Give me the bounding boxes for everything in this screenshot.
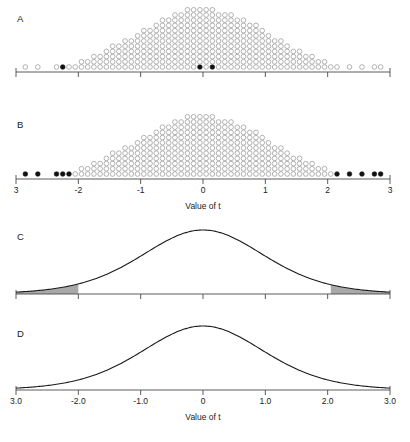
panel-b-letter: B xyxy=(17,119,23,130)
data-dot-highlighted xyxy=(210,65,215,70)
panel-d-tick-label-3: 0 xyxy=(201,396,206,406)
figure-container: A B3-2-10123Value of t C D3.0-2.0-1.001.… xyxy=(0,0,410,442)
panel-d-tick-label-5: 2.0 xyxy=(322,396,334,406)
panel-d-tick-label-4: 1.0 xyxy=(259,396,271,406)
panel-d-letter: D xyxy=(17,328,24,339)
data-dot-highlighted xyxy=(35,172,40,177)
panel-b-axis-title: Value of t xyxy=(185,201,221,211)
data-dot-highlighted xyxy=(378,172,383,177)
data-dot-highlighted xyxy=(67,172,72,177)
data-dot-highlighted xyxy=(372,172,377,177)
panel-a-letter: A xyxy=(17,13,24,24)
panel-b-tick-label-3: 0 xyxy=(201,185,206,195)
panel-d-tick-label-6: 3.0 xyxy=(384,396,396,406)
panel-b-tick-label-4: 1 xyxy=(263,185,268,195)
figure-canvas: A B3-2-10123Value of t C D3.0-2.0-1.001.… xyxy=(0,0,410,442)
panel-b-tick-label-5: 2 xyxy=(325,185,330,195)
data-dot-highlighted xyxy=(347,172,352,177)
panel-c-letter: C xyxy=(17,231,24,242)
data-dot-highlighted xyxy=(360,172,365,177)
panel-b-tick-label-0: 3 xyxy=(14,185,19,195)
data-dot-highlighted xyxy=(23,172,28,177)
panel-d-tick-label-1: -2.0 xyxy=(71,396,86,406)
data-dot-highlighted xyxy=(198,65,203,70)
panel-b-tick-label-6: 3 xyxy=(388,185,393,195)
panel-b-tick-label-2: -1 xyxy=(137,185,145,195)
data-dot-highlighted xyxy=(335,172,340,177)
data-dot-highlighted xyxy=(54,172,59,177)
panel-d-tick-label-0: 3.0 xyxy=(10,396,22,406)
panel-d-axis-title: Value of t xyxy=(185,412,221,422)
data-dot-highlighted xyxy=(60,65,65,70)
data-dot-highlighted xyxy=(60,172,65,177)
panel-b-tick-label-1: -2 xyxy=(75,185,83,195)
panel-d-tick-label-2: -1.0 xyxy=(133,396,148,406)
